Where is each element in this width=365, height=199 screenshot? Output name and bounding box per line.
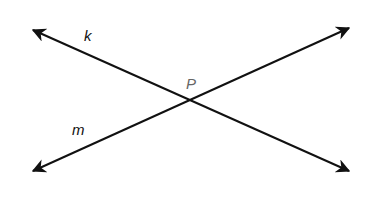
line-k-label: k: [84, 28, 92, 43]
point-p-label: P: [186, 76, 196, 91]
intersecting-lines-figure: [0, 0, 365, 199]
line-m-label: m: [72, 122, 85, 137]
diagram-canvas: k P m: [0, 0, 365, 199]
